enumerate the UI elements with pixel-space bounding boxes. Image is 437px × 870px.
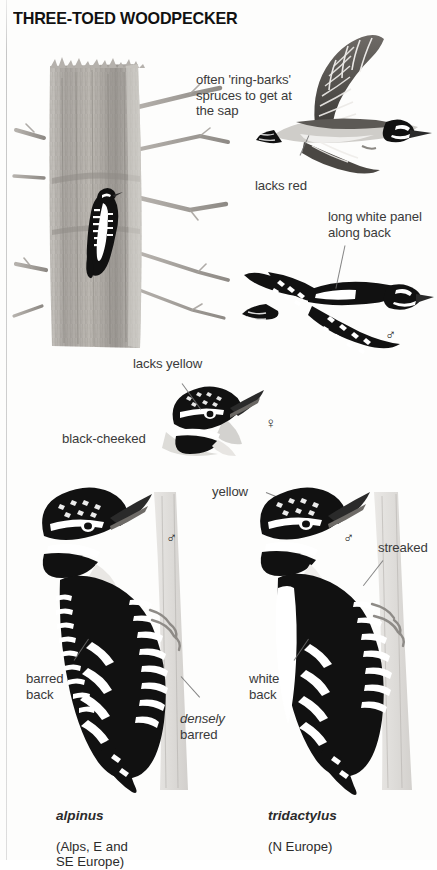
figure-perched-tridactylus xyxy=(248,492,434,792)
margin-rule xyxy=(6,0,7,860)
annotation-black-cheeked: black-cheeked xyxy=(62,431,192,447)
figure-flight-upperside xyxy=(238,244,434,366)
figure-flight-underside xyxy=(256,30,434,175)
symbol-flight-upper-male: ♂ xyxy=(385,327,396,342)
annotation-white-back: white back xyxy=(249,671,319,702)
symbol-tridactylus-male: ♂ xyxy=(343,530,354,545)
symbol-head-portrait-female: ♀ xyxy=(265,415,276,430)
caption-alpinus: alpinus (Alps, E and SE Europe) xyxy=(56,792,186,870)
caption-alpinus-scientific: alpinus xyxy=(56,808,186,824)
figure-head-portrait-female xyxy=(160,378,278,464)
annotation-streaked: streaked xyxy=(378,540,437,556)
caption-alpinus-range: (Alps, E and SE Europe) xyxy=(56,839,128,870)
symbol-alpinus-male: ♂ xyxy=(166,530,177,545)
annotation-long-white-panel: long white panel along back xyxy=(328,209,437,240)
caption-tridactylus-scientific: tridactylus xyxy=(268,808,408,824)
caption-tridactylus-range: (N Europe) xyxy=(268,839,333,854)
page-title: THREE-TOED WOODPECKER xyxy=(13,9,238,29)
annotation-lacks-red: lacks red xyxy=(255,178,365,194)
caption-tridactylus: tridactylus (N Europe) xyxy=(268,792,408,854)
annotation-barred-back: barred back xyxy=(26,671,96,702)
annotation-lacks-yellow: lacks yellow xyxy=(133,356,253,372)
figure-perched-alpinus xyxy=(26,492,216,792)
